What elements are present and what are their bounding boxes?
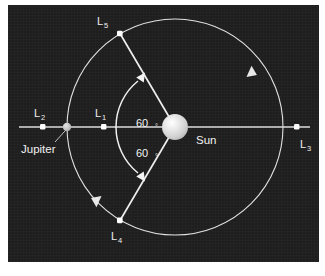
l5-marker (117, 31, 123, 37)
l1-label-base: L (95, 107, 101, 119)
angle-arc-upper (116, 81, 138, 127)
angle-lower-value: 60 (136, 147, 148, 159)
jupiter-label: Jupiter (21, 143, 56, 155)
l4-label-subscript: 4 (118, 236, 122, 245)
sun-label: Sun (196, 134, 216, 146)
l1-marker (101, 124, 106, 129)
caption-strip (8, 266, 319, 276)
jupiter-leader-line (55, 131, 65, 142)
l2-label-subscript: 2 (41, 113, 45, 122)
angle-lower-degree-symbol: ° (155, 152, 158, 161)
figure-root: L 5 L 2 L 1 L 3 L 4 Jupiter Sun 60 ° 60 … (0, 0, 325, 276)
l4-marker (117, 218, 123, 224)
l2-label-base: L (34, 107, 40, 119)
l5-label-subscript: 5 (104, 21, 108, 30)
l2-marker (40, 124, 45, 129)
sun-body (162, 114, 188, 140)
l3-label-subscript: 3 (307, 144, 311, 153)
orbit-direction-arrow-upper (244, 66, 259, 82)
l4-label-base: L (111, 230, 117, 242)
l3-label-base: L (300, 138, 306, 150)
lagrange-point-diagram: L 5 L 2 L 1 L 3 L 4 Jupiter Sun 60 ° 60 … (8, 5, 319, 262)
angle-upper-degree-symbol: ° (155, 122, 158, 131)
angle-upper-value: 60 (136, 117, 148, 129)
sun-l5-radius-line (120, 34, 175, 128)
l1-label-subscript: 1 (102, 113, 106, 122)
l3-marker (294, 124, 299, 129)
l5-label-base: L (97, 15, 103, 27)
jupiter-body (63, 123, 71, 131)
sun-l4-radius-line (120, 127, 175, 221)
angle-arc-lower (116, 127, 138, 173)
diagram-panel: L 5 L 2 L 1 L 3 L 4 Jupiter Sun 60 ° 60 … (8, 5, 319, 262)
